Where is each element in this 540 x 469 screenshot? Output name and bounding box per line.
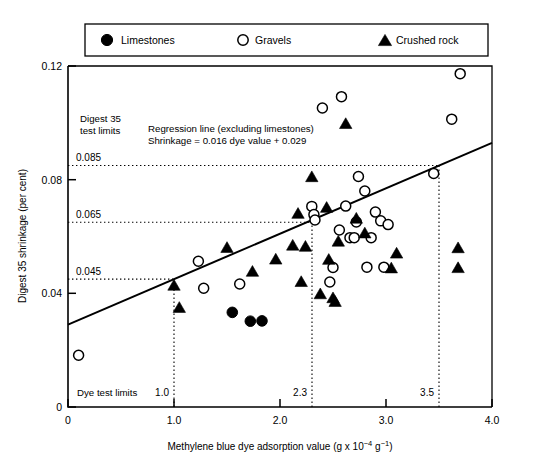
data-point-crushed-rock (314, 288, 326, 299)
data-point-crushed-rock (340, 118, 352, 129)
x-tick-label-3.0: 3.0 (379, 414, 394, 426)
data-point-limestone (245, 316, 256, 327)
x-axis-title-main: Methylene blue dye adsorption value (g x… (167, 441, 364, 452)
data-point-crushed-rock (295, 276, 307, 287)
regression-annotation-line2: Shrinkage = 0.016 dye value + 0.029 (148, 135, 306, 146)
legend-marker-gravels (238, 35, 248, 45)
series-limestones (227, 307, 267, 326)
data-point-gravel (353, 172, 363, 182)
x-tick-label-1.0: 1.0 (167, 414, 182, 426)
y-tick-label-0.12: 0.12 (42, 60, 63, 72)
digest-limits-title-line2: test limits (80, 125, 121, 136)
data-point-crushed-rock (350, 212, 362, 223)
plot-frame (68, 66, 492, 407)
data-point-crushed-rock (292, 208, 304, 219)
data-point-crushed-rock (332, 235, 344, 246)
data-point-gravel (193, 256, 203, 266)
legend-label-crushed-rock: Crushed rock (396, 34, 459, 46)
limit-label-1.0: 1.0 (155, 387, 169, 398)
data-point-crushed-rock (299, 241, 311, 252)
data-point-gravel (349, 233, 359, 243)
series-gravels (74, 69, 466, 361)
data-point-gravel (317, 103, 327, 113)
data-point-gravel (447, 114, 457, 124)
data-point-limestone (257, 316, 268, 327)
data-point-crushed-rock (173, 302, 185, 313)
data-points-layer (74, 69, 466, 361)
data-point-gravel (334, 225, 344, 235)
data-point-crushed-rock (270, 253, 282, 264)
data-point-gravel (325, 277, 335, 287)
regression-line (68, 143, 492, 325)
dye-limits-title: Dye test limits (77, 387, 137, 398)
digest-limits-title-line1: Digest 35 (80, 113, 121, 124)
y-tick-label-0.08: 0.08 (42, 174, 63, 186)
data-point-gravel (336, 92, 346, 102)
y-axis-title: Digest 35 shrinkage (per cent) (17, 169, 28, 303)
data-point-crushed-rock (390, 247, 402, 258)
digest-limit-lines: 0.085 0.065 0.045 (68, 152, 439, 279)
axis-left-bottom (68, 66, 492, 407)
x-axis-title-exp1: −4 (364, 439, 373, 448)
data-point-gravel (341, 201, 351, 211)
data-point-crushed-rock (287, 239, 299, 250)
data-point-gravel (74, 350, 84, 360)
y-tick-label-0: 0 (56, 401, 62, 413)
data-point-gravel (235, 279, 245, 289)
x-tick-label-2.0: 2.0 (273, 414, 288, 426)
data-point-gravel (362, 262, 372, 272)
legend-marker-limestones (101, 34, 112, 45)
regression-annotation-line1: Regression line (excluding limestones) (148, 123, 314, 134)
limit-label-0.065: 0.065 (76, 209, 101, 220)
data-point-gravel (429, 168, 439, 178)
legend: Limestones Gravels Crushed rock (85, 24, 488, 56)
data-point-crushed-rock (452, 262, 464, 273)
data-point-crushed-rock (306, 171, 318, 182)
data-point-crushed-rock (323, 254, 335, 265)
data-point-gravel (360, 186, 370, 196)
x-tick-label-0: 0 (65, 414, 71, 426)
data-point-crushed-rock (320, 202, 332, 213)
y-tick-label-0.04: 0.04 (42, 287, 63, 299)
data-point-gravel (199, 283, 209, 293)
limit-label-0.045: 0.045 (76, 266, 101, 277)
data-point-gravel (310, 215, 320, 225)
axis-titles: Methylene blue dye adsorption value (g x… (17, 169, 393, 452)
data-point-crushed-rock (221, 242, 233, 253)
scatter-plot-figure: Limestones Gravels Crushed rock 0 0.04 0… (0, 0, 540, 469)
chart-svg: Limestones Gravels Crushed rock 0 0.04 0… (0, 0, 540, 469)
data-point-crushed-rock (246, 266, 258, 277)
legend-label-limestones: Limestones (121, 34, 175, 46)
limit-label-2.3: 2.3 (293, 387, 307, 398)
data-point-gravel (383, 220, 393, 230)
data-point-limestone (227, 307, 238, 318)
limit-label-0.085: 0.085 (76, 152, 101, 163)
x-tick-label-4.0: 4.0 (485, 414, 500, 426)
data-point-crushed-rock (452, 242, 464, 253)
legend-label-gravels: Gravels (255, 34, 291, 46)
x-axis-ticks: 0 1.0 2.0 3.0 4.0 (65, 399, 499, 426)
limit-label-3.5: 3.5 (420, 387, 434, 398)
data-point-gravel (455, 69, 465, 79)
x-axis-title-exp2: −1 (381, 439, 390, 448)
annotations: Digest 35 test limits Regression line (e… (77, 113, 314, 398)
frame-top-right (68, 66, 492, 407)
y-axis-ticks: 0 0.04 0.08 0.12 (42, 60, 76, 413)
x-axis-title: Methylene blue dye adsorption value (g x… (167, 439, 392, 452)
